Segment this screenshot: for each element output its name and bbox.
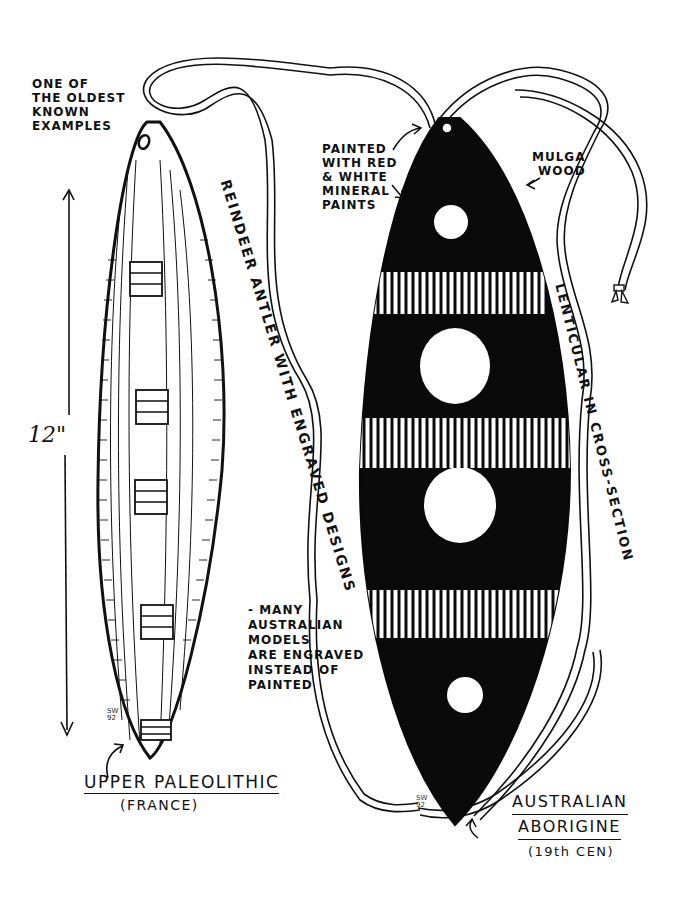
antler-bullroarer [98,122,224,758]
culture-title: AUSTRALIAN ABORIGINE (19th CEN) [512,790,628,864]
signature-left: SW 92 [107,708,118,722]
paint-note: PAINTED WITH RED & WHITE MINERAL PAINTS [322,142,398,212]
engraved-note: - MANY AUSTRALIAN MODELS ARE ENGRAVED IN… [248,603,364,693]
bullroarer-drawing [0,0,673,902]
dimension-label: 12" [28,422,66,447]
wood-note: MULGA WOOD [532,150,586,178]
oldest-examples-note: ONE OF THE OLDEST KNOWN EXAMPLES [32,77,125,133]
signature-right: SW 92 [416,795,427,809]
period-label: UPPER PALEOLITHIC (FRANCE) [84,771,279,816]
dimension-arrow [61,190,74,735]
painted-bullroarer [356,118,576,825]
